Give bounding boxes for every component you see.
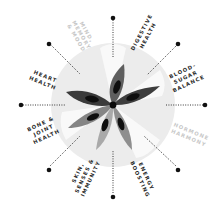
dot-digestive [176,42,181,47]
dot-bone [19,103,24,108]
label-energy-boosting: ENERGY BOOSTING [129,157,157,198]
dot-hormone [176,168,181,173]
health-benefits-wheel: MIND, MEMORY & MOOD DIGESTIVE HEALTH BLO… [0,0,224,210]
label-hormone-harmony: HORMONE HARMONY [170,121,210,147]
label-skin-senses-immunity: SKIN, SENSES & IMMUNITY [67,154,102,198]
dot-mind [111,16,116,21]
label-digestive-health: DIGESTIVE HEALTH [129,13,160,55]
flower-center [110,102,117,109]
dot-skin [47,168,52,173]
wheel-svg: MIND, MEMORY & MOOD DIGESTIVE HEALTH BLO… [0,0,224,210]
dot-blood-sugar [203,103,208,108]
label-heart-health: HEART HEALTH [28,68,60,91]
dot-energy [111,195,116,200]
dot-heart [47,42,52,47]
label-blood-sugar-balance: BLOOD- SUGAR BALANCE [166,61,206,94]
